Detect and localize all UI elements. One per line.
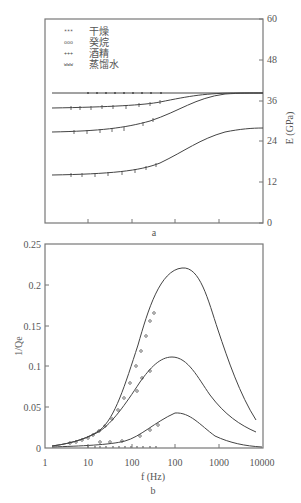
- curve-alcohol: [52, 93, 263, 132]
- curve-high: [52, 268, 256, 446]
- legend-label-decane: 癸烷: [89, 36, 109, 48]
- y-tick-label: 0: [36, 443, 41, 454]
- curve-water: [52, 128, 263, 175]
- y-tick-label: 48: [267, 54, 277, 65]
- panel-b-frame: [45, 244, 263, 448]
- y-axis-label: 1/Qe: [13, 336, 24, 356]
- legend-label-water: 蒸馏水: [89, 58, 119, 70]
- y-tick-label: 24: [267, 135, 277, 146]
- y-tick-label: 36: [267, 95, 277, 106]
- x-tick-label: 100: [125, 457, 140, 468]
- y-tick-label: 0: [267, 217, 272, 228]
- y-tick-label: 0.1: [29, 361, 42, 372]
- curve-decane: [52, 93, 263, 108]
- markers-alcohol: [74, 118, 153, 134]
- panel-a-x-axis: [88, 219, 219, 223]
- x-tick-label: 10: [83, 457, 93, 468]
- curve-mid: [52, 357, 256, 446]
- curve-low: [52, 413, 262, 447]
- x-tick-label: 1: [43, 457, 48, 468]
- panel-a-frame: [45, 19, 263, 223]
- panel-b-x-axis: 1 10 100 100 1000 10000 f (Hz): [43, 444, 275, 483]
- panel-a-caption: a: [152, 227, 157, 238]
- panel-b-chart: 0.25 0.2 0.15 0.1 0.05 0 1/Qe 1 10 100 1…: [13, 239, 275, 496]
- legend: *** 干燥 ooo 癸烷 +++ 酒精 www 蒸馏水: [64, 26, 119, 70]
- legend-marker-dry: ***: [64, 28, 73, 34]
- markers-b: [69, 312, 160, 445]
- panel-a-chart: 60 48 36 24 12 0 E (GPa) *** 干燥 ooo 癸烷 +…: [45, 13, 296, 238]
- x-tick-label: 10000: [250, 457, 275, 468]
- y-axis-label: E (GPa): [284, 112, 296, 145]
- legend-label-alcohol: 酒精: [89, 47, 109, 59]
- legend-marker-water: www: [64, 61, 74, 67]
- markers-decane: [71, 100, 160, 110]
- x-tick-label: 100: [168, 457, 183, 468]
- panel-a-y-axis: 60 48 36 24 12 0 E (GPa): [259, 13, 296, 228]
- figure: 60 48 36 24 12 0 E (GPa) *** 干燥 ooo 癸烷 +…: [0, 0, 301, 503]
- legend-marker-decane: ooo: [64, 39, 73, 45]
- x-tick-label: 1000: [209, 457, 229, 468]
- y-tick-label: 60: [267, 13, 277, 24]
- x-axis-label: f (Hz): [141, 471, 165, 483]
- y-tick-label: 0.15: [24, 321, 42, 332]
- markers-water: [71, 163, 156, 177]
- panel-b-caption: b: [151, 485, 156, 496]
- y-tick-label: 0.2: [29, 280, 42, 291]
- y-tick-label: 0.25: [24, 239, 42, 250]
- panel-b-y-axis: 0.25 0.2 0.15 0.1 0.05 0 1/Qe: [13, 239, 49, 454]
- legend-label-dry: 干燥: [89, 26, 109, 37]
- y-tick-label: 0.05: [24, 402, 42, 413]
- legend-marker-alcohol: +++: [64, 50, 73, 56]
- y-tick-label: 12: [267, 176, 277, 187]
